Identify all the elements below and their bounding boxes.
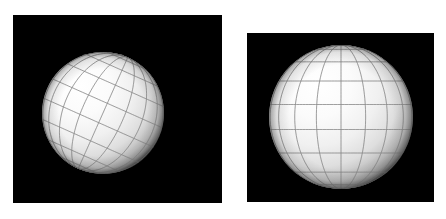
- upright-grid-sphere: [247, 33, 434, 202]
- upright-sphere-panel: [247, 33, 434, 202]
- tilted-sphere-panel: [13, 15, 222, 203]
- figure-canvas: Two rendered spheres with latitude-longi…: [0, 0, 446, 219]
- tilted-grid-sphere: [13, 15, 222, 203]
